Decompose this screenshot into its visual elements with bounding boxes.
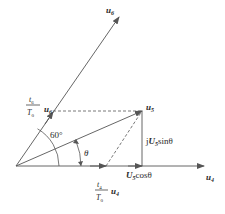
t6-numerator: t6 — [29, 95, 34, 105]
u4-label: u4 — [206, 172, 214, 183]
cos-label: U5cosθ — [126, 170, 152, 181]
t4-numerator: t4 — [97, 180, 102, 190]
t6-denominator: T0 — [27, 108, 34, 118]
angle-theta-label: θ — [84, 148, 89, 158]
vector-diagram: u6 u5 u4 t6 T0 u6 t4 T0 u4 60° θ jU5sinθ… — [0, 0, 225, 214]
u4-component-label: u4 — [111, 186, 119, 197]
u5-label: u5 — [146, 102, 154, 113]
u6-label: u6 — [106, 5, 114, 16]
theta-arrow-bottom-icon — [78, 161, 83, 166]
jsin-label: jU5sinθ — [145, 136, 173, 147]
angle-60-label: 60° — [50, 130, 63, 140]
u6-component-label: u6 — [44, 104, 52, 115]
t4-denominator: T0 — [96, 193, 103, 203]
theta-arrow-top-icon — [73, 139, 79, 144]
